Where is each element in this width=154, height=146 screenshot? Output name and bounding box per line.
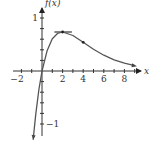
y-tick-label-1: 1 — [32, 13, 38, 23]
x-axis: x −2 2 4 6 8 — [10, 66, 149, 84]
x-tick-label-neg2: −2 — [10, 74, 23, 84]
y-axis: f(x) 1 −1 — [32, 0, 61, 136]
x-tick-label-6: 6 — [101, 74, 107, 84]
y-axis-label: f(x) — [44, 0, 61, 8]
x-axis-label: x — [144, 66, 149, 76]
x-tick-label-2: 2 — [60, 74, 66, 84]
inflection-point — [82, 41, 85, 44]
curve-arrow-right-icon — [132, 63, 138, 67]
x-tick-label-8: 8 — [122, 74, 128, 84]
curve-arrow-left-icon — [32, 135, 36, 140]
y-tick-label-neg1: −1 — [46, 119, 59, 129]
x-tick-label-4: 4 — [80, 74, 86, 84]
maximum-point — [61, 31, 64, 34]
function-graph: x −2 2 4 6 8 f(x) 1 −1 — [0, 0, 154, 146]
